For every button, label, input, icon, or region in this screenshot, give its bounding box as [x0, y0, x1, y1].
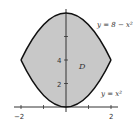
- region-label: D: [78, 62, 86, 71]
- y-tick-label-4: 4: [57, 57, 62, 65]
- upper-curve-label: y = 8 − x²: [96, 21, 133, 29]
- x-tick-label-2: 2: [109, 113, 113, 121]
- lower-curve-label: y = x²: [100, 90, 122, 98]
- region-diagram: y = 8 − x² y = x² D 4 2 −2 2: [0, 0, 133, 128]
- x-tick-label-neg2: −2: [14, 113, 24, 121]
- y-tick-label-2: 2: [57, 81, 61, 89]
